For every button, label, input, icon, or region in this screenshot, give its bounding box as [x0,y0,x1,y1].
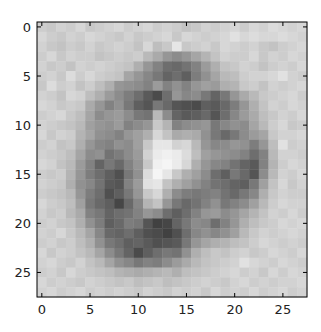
heatmap-cell [201,287,211,297]
heatmap-cell [105,32,115,42]
heatmap-cell [249,199,259,209]
heatmap-cell [95,130,105,140]
heatmap-cell [268,268,278,278]
heatmap-cell [297,277,307,287]
heatmap-cell [66,268,76,278]
heatmap-cell [143,248,153,258]
heatmap-cell [76,91,86,101]
heatmap-cell [268,130,278,140]
heatmap-cell [191,61,201,71]
heatmap-cell [297,42,307,52]
heatmap-cell [133,268,143,278]
heatmap-cell [230,150,240,160]
heatmap-cell [76,150,86,160]
heatmap-cell [240,71,250,81]
heatmap-cell [47,277,57,287]
heatmap-cell [133,130,143,140]
heatmap-cell [249,61,259,71]
y-tick-label: 0 [23,20,31,35]
y-tick-label: 10 [14,118,31,133]
heatmap-cell [249,169,259,179]
heatmap-cell [240,258,250,268]
heatmap-cell [297,160,307,170]
heatmap-cell [211,110,221,120]
heatmap-cell [124,209,134,219]
heatmap-cell [85,61,95,71]
heatmap-cell [47,268,57,278]
heatmap-cell [211,61,221,71]
heatmap-cell [153,110,163,120]
heatmap-cell [56,61,66,71]
heatmap-cell [259,268,269,278]
heatmap-cell [85,199,95,209]
heatmap-cell [124,120,134,130]
heatmap-cell [162,51,172,61]
heatmap-cell [133,120,143,130]
heatmap-cell [220,32,230,42]
heatmap-cell [85,42,95,52]
heatmap-cell [143,71,153,81]
heatmap-cell [240,51,250,61]
heatmap-figure: 0510152025 0510152025 [0,0,321,332]
heatmap-cell [76,277,86,287]
heatmap-cell [66,277,76,287]
heatmap-cell [37,238,47,248]
heatmap-cell [114,81,124,91]
heatmap-cell [268,32,278,42]
heatmap-cell [85,169,95,179]
heatmap-cell [162,81,172,91]
heatmap-cell [47,169,57,179]
heatmap-cell [114,51,124,61]
heatmap-cell [172,248,182,258]
heatmap-cell [66,51,76,61]
heatmap-cell [172,120,182,130]
heatmap-cell [114,209,124,219]
heatmap-cell [56,248,66,258]
heatmap-cell [201,61,211,71]
heatmap-cell [201,140,211,150]
heatmap-cell [114,268,124,278]
heatmap-cell [76,169,86,179]
heatmap-cell [259,130,269,140]
heatmap-cell [37,81,47,91]
heatmap-cell [85,258,95,268]
heatmap-cell [288,160,298,170]
heatmap-cell [259,238,269,248]
heatmap-cell [249,277,259,287]
heatmap-cell [240,287,250,297]
heatmap-cell [220,228,230,238]
heatmap-cell [201,238,211,248]
heatmap-cell [47,130,57,140]
heatmap-cell [278,189,288,199]
heatmap-cell [191,91,201,101]
heatmap-cell [249,91,259,101]
heatmap-cell [191,32,201,42]
heatmap-cell [85,91,95,101]
heatmap-cell [47,32,57,42]
heatmap-cell [249,238,259,248]
heatmap-cell [124,22,134,32]
heatmap-cell [288,189,298,199]
heatmap-cell [278,150,288,160]
heatmap-cell [172,101,182,111]
heatmap-cell [201,258,211,268]
heatmap-cell [37,42,47,52]
heatmap-cell [66,101,76,111]
heatmap-cell [153,189,163,199]
heatmap-cell [172,189,182,199]
heatmap-cell [230,91,240,101]
heatmap-cell [297,130,307,140]
heatmap-cell [153,199,163,209]
heatmap-cell [230,101,240,111]
heatmap-cell [47,110,57,120]
heatmap-cell [211,130,221,140]
heatmap-cell [230,199,240,209]
heatmap-cell [211,160,221,170]
heatmap-cell [56,287,66,297]
heatmap-cell [201,120,211,130]
heatmap-cell [143,91,153,101]
heatmap-cell [240,130,250,140]
heatmap-cell [211,179,221,189]
heatmap-cell [162,287,172,297]
heatmap-cell [259,71,269,81]
